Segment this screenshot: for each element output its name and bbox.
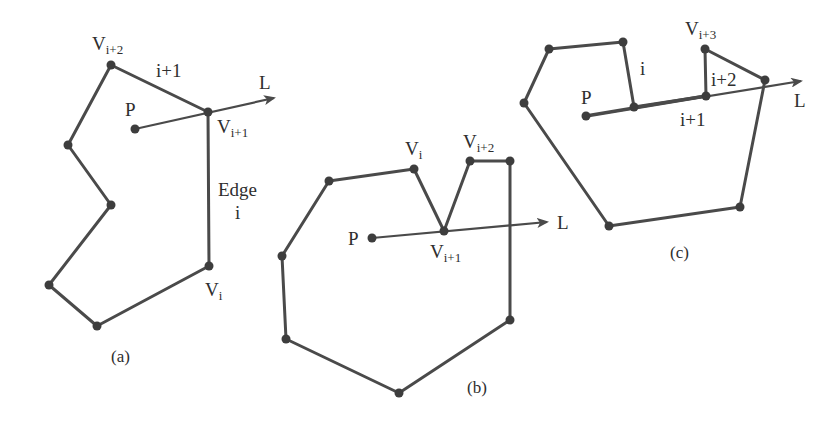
vertex xyxy=(107,201,116,210)
label-v-i3: Vi+3 xyxy=(685,18,716,42)
point-in-polygon-figure: Vi+2 i+1 P L Vi+1 Edge i Vi (a) Vi Vi+2 … xyxy=(0,0,839,424)
point-p-b xyxy=(368,234,377,243)
label-p-a: P xyxy=(125,99,136,120)
vertex xyxy=(325,177,334,186)
point-p-a xyxy=(131,125,140,134)
vertex-v-i3 xyxy=(701,45,710,54)
vertex xyxy=(506,316,515,325)
vertex-edge-i-end xyxy=(630,103,639,112)
vertex-edge-i1-end xyxy=(702,92,711,101)
label-L-c: L xyxy=(794,90,806,111)
label-v-i1-b: Vi+1 xyxy=(430,241,461,265)
point-p-c xyxy=(582,112,591,121)
vertex xyxy=(45,281,54,290)
vertex-v-i xyxy=(410,165,419,174)
ray-L-b xyxy=(372,222,547,238)
caption-c: (c) xyxy=(670,243,689,262)
label-v-i1: Vi+1 xyxy=(217,116,248,140)
vertex xyxy=(278,252,287,261)
vertex-v-i2 xyxy=(107,61,116,70)
vertex xyxy=(605,222,614,231)
label-edge-i: i xyxy=(235,202,240,223)
label-v-i-b: Vi xyxy=(405,138,423,162)
vertex-v-i1 xyxy=(440,227,449,236)
label-L-b: L xyxy=(557,212,569,233)
vertex xyxy=(520,99,529,108)
vertex xyxy=(619,38,628,47)
label-p-b: P xyxy=(348,228,359,249)
label-v-i: Vi xyxy=(205,279,223,303)
label-edge-i2-c: i+2 xyxy=(711,69,737,90)
vertex xyxy=(282,335,291,344)
label-p-c: P xyxy=(581,87,592,108)
label-v-i2: Vi+2 xyxy=(92,33,123,57)
vertex-v-i2 xyxy=(466,157,475,166)
label-edge-word: Edge xyxy=(218,179,257,200)
label-L-a: L xyxy=(259,72,271,93)
panel-a: Vi+2 i+1 P L Vi+1 Edge i Vi (a) xyxy=(45,33,275,366)
caption-b: (b) xyxy=(467,378,487,397)
vertex xyxy=(761,76,770,85)
label-edge-i1: i+1 xyxy=(156,60,182,81)
vertex xyxy=(64,141,73,150)
label-edge-i-c: i xyxy=(640,58,645,79)
panel-b: Vi Vi+2 P Vi+1 L (b) xyxy=(278,131,569,398)
caption-a: (a) xyxy=(111,347,130,366)
vertex-v-i xyxy=(205,262,214,271)
vertex xyxy=(93,322,102,331)
label-edge-i1-c: i+1 xyxy=(680,109,706,130)
vertex xyxy=(395,389,404,398)
vertex-v-i1 xyxy=(204,108,213,117)
vertex xyxy=(506,157,515,166)
polygon-b xyxy=(282,161,510,393)
label-v-i2-b: Vi+2 xyxy=(463,131,494,155)
vertex xyxy=(545,45,554,54)
vertex xyxy=(736,203,745,212)
